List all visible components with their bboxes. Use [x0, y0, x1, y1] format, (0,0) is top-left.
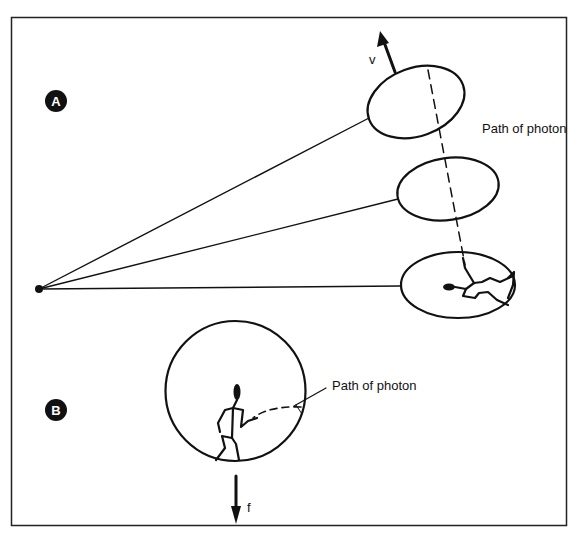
velocity-arrow: [377, 31, 395, 72]
equivalence-principle-diagram: A v Path of photon: [0, 0, 579, 536]
badge-b: B: [45, 399, 67, 421]
badge-b-label: B: [51, 403, 60, 418]
badge-a: A: [45, 90, 67, 112]
force-label: f: [247, 500, 251, 515]
photon-path-b: [253, 407, 301, 418]
photon-path-a: [428, 70, 465, 265]
box-position-3: [401, 252, 515, 318]
figure-frame: [12, 18, 567, 526]
force-arrow: [231, 476, 241, 524]
photon-label-a: Path of photon: [482, 121, 567, 136]
panel-b: B Path of photon f: [45, 321, 417, 524]
badge-a-label: A: [51, 94, 61, 109]
radius-line-top: [39, 118, 369, 289]
velocity-label: v: [369, 52, 376, 67]
panel-a: A v Path of photon: [35, 31, 567, 318]
box-position-1: [357, 53, 474, 151]
box-position-2: [393, 151, 503, 227]
observer-figure-b: [216, 384, 257, 460]
radius-line-bottom: [39, 286, 401, 289]
photon-label-leader: [294, 388, 326, 406]
radius-line-middle: [39, 199, 398, 289]
photon-label-b: Path of photon: [332, 378, 417, 393]
